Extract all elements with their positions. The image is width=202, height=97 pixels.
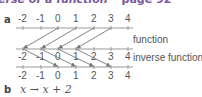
inverse-function-label: inverse function bbox=[133, 52, 202, 63]
function-label: function bbox=[133, 34, 168, 45]
part-b-label: b bbox=[4, 84, 11, 95]
mapping-expression: x → x + 2 bbox=[20, 83, 72, 96]
